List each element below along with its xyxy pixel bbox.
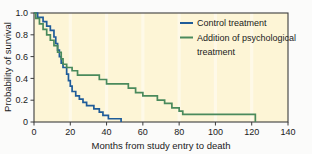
y-tick-label: 0.6 [15,52,28,62]
legend-label: treatment [197,47,236,57]
y-tick-label: 0.8 [15,30,28,40]
x-tick-label: 100 [208,127,223,137]
x-tick-label: 80 [174,127,184,137]
kaplan-meier-chart: 020406080100120140 00.20.40.60.81.0 Mont… [0,0,312,154]
x-tick-label: 40 [102,127,112,137]
x-tick-label: 20 [65,127,75,137]
x-gridband [105,13,108,122]
x-gridband [178,13,181,122]
y-tick-label: 0 [23,117,28,127]
x-gridband [214,13,217,122]
x-tick-label: 140 [280,127,295,137]
legend-label: Control treatment [197,18,267,28]
y-tick-label: 0.4 [15,74,28,84]
x-gridband [141,13,144,122]
y-tick-label: 0.2 [15,95,28,105]
x-axis-title: Months from study entry to death [92,140,231,151]
x-tick-label: 60 [138,127,148,137]
y-tick-label: 1.0 [15,8,28,18]
y-axis-title: Probability of survival [2,22,13,112]
legend-label: Addition of psychological [197,33,296,43]
x-tick-label: 0 [31,127,36,137]
survival-chart-figure: 020406080100120140 00.20.40.60.81.0 Mont… [0,0,312,154]
x-tick-label: 120 [244,127,259,137]
x-gridband [250,13,253,122]
